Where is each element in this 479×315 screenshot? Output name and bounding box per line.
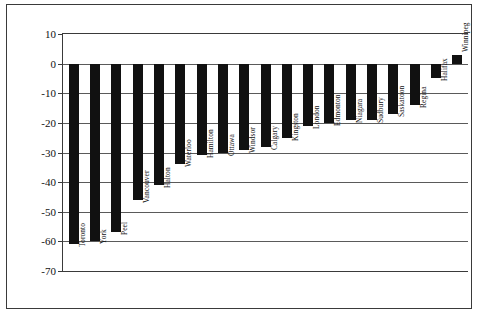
bar-label: Toronto [78, 223, 87, 247]
y-tick-mark [58, 182, 63, 183]
y-tick-label: -10 [41, 87, 56, 99]
bar [69, 64, 79, 245]
bar [90, 64, 100, 242]
y-tick-label: 0 [51, 58, 57, 70]
chart-screenshot: Changes in Rents vs. Incomes 100-10-20-3… [0, 0, 479, 315]
bar-label: London [312, 105, 321, 129]
y-tick-label: -60 [41, 235, 56, 247]
bar-label: Vancouver [142, 170, 151, 203]
gridline [63, 182, 468, 183]
y-tick-label: -30 [41, 147, 56, 159]
y-tick-mark [58, 64, 63, 65]
y-tick-label: -20 [41, 117, 56, 129]
bar-label: Peel [120, 222, 129, 235]
bar-label: Niagara [355, 99, 364, 123]
y-tick-mark [58, 93, 63, 94]
bar-label: Winnipeg [461, 22, 470, 52]
y-tick-mark [58, 153, 63, 154]
bar-label: Windsor [248, 127, 257, 153]
bar-label: Calgary [270, 125, 279, 149]
bar-label: Sudbury [376, 97, 385, 123]
bar-label: Saskatoon [397, 86, 406, 117]
gridline [63, 153, 468, 154]
bar [452, 55, 462, 64]
y-tick-label: -40 [41, 176, 56, 188]
y-tick-label: 10 [45, 28, 56, 40]
bar-label: Regina [419, 87, 428, 109]
bar [261, 64, 271, 147]
bar-label: Halifax [440, 59, 449, 82]
y-tick-label: -50 [41, 206, 56, 218]
y-tick-mark [58, 123, 63, 124]
bar [111, 64, 121, 233]
y-tick-label: -70 [41, 265, 56, 277]
y-tick-mark [58, 212, 63, 213]
bar-label: York [99, 230, 108, 245]
bar-label: Edmonton [333, 94, 342, 126]
gridline [63, 241, 468, 242]
bar-label: Hamilton [206, 130, 215, 159]
y-tick-mark [58, 241, 63, 242]
y-tick-mark [58, 34, 63, 35]
bar-label: Kingston [291, 113, 300, 141]
plot-area: 100-10-20-30-40-50-60-70 TorontoYorkPeel… [62, 33, 468, 272]
bar-label: Halton [163, 167, 172, 188]
gridline [63, 212, 468, 213]
y-tick-mark [58, 271, 63, 272]
bar-label: Ottawa [227, 134, 236, 156]
bar-label: Waterloo [184, 140, 193, 168]
